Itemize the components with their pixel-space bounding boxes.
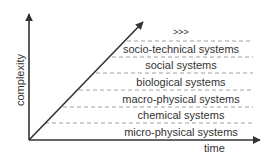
level-macro-physical: macro-physical systems [122,93,239,105]
y-axis-label: complexity [14,54,26,106]
level-chemical: chemical systems [138,109,225,121]
level-social: social systems [145,59,217,71]
x-axis-label: time [204,142,225,154]
level-more: >>> [173,26,189,38]
level-biological: biological systems [136,76,225,88]
level-socio-technical: socio-technical systems [123,43,239,55]
complexity-growth-arrow [29,22,143,140]
level-micro-physical: micro-physical systems [124,126,238,138]
